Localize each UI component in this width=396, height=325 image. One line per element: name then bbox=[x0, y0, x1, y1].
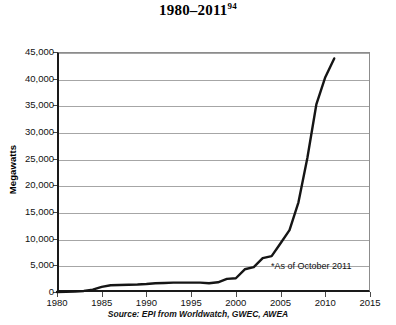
source-note: Source: EPI from Worldwatch, GWEC, AWEA bbox=[0, 309, 396, 319]
as-of-annotation: *As of October 2011 bbox=[271, 261, 351, 271]
data-line-layer bbox=[0, 0, 396, 325]
chart-canvas: 1980–201194 05,00010,00015,00020,00025,0… bbox=[0, 0, 396, 325]
y-axis-title: Megawatts bbox=[7, 135, 18, 205]
data-line bbox=[57, 58, 334, 292]
